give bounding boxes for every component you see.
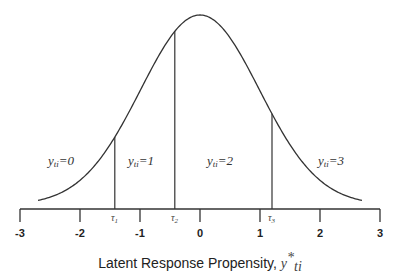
region-label-y2: yti=2	[205, 153, 234, 169]
tau2-label: τ2	[171, 212, 179, 225]
tick-label: 2	[317, 227, 323, 239]
region-label-y0: yti=0	[46, 153, 75, 169]
x-axis-ticks	[20, 209, 380, 222]
tick-label: 1	[257, 227, 263, 239]
tau1-label: τ1	[111, 212, 118, 225]
tau3-label: τ3	[268, 212, 276, 225]
region-label-y3: yti=3	[316, 153, 345, 169]
normal-threshold-diagram: -3 -2 -1 0 1 2 3 τ1 τ2 τ3 yti=0 yti=1 yt…	[0, 0, 395, 280]
density-curve	[38, 15, 362, 200]
region-label-y1: yti=1	[126, 153, 154, 169]
tick-label: 0	[197, 227, 203, 239]
x-axis-title: Latent Response Propensity, y*ti	[98, 250, 302, 274]
tick-label: 3	[377, 227, 383, 239]
tick-label: -1	[135, 227, 145, 239]
tick-label: -3	[15, 227, 25, 239]
tick-label: -2	[75, 227, 85, 239]
